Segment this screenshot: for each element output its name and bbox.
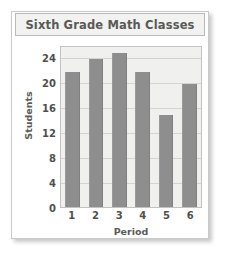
bar-slot xyxy=(108,47,131,207)
bar[interactable] xyxy=(159,115,173,207)
page-title: Sixth Grade Math Classes xyxy=(25,18,194,32)
bar-series xyxy=(61,47,201,207)
x-axis-tick-label: 5 xyxy=(155,210,179,221)
y-axis-tick-label: 20 xyxy=(34,78,56,89)
plot-inner xyxy=(61,47,201,207)
bar-slot xyxy=(178,47,201,207)
y-axis-tick-label: 16 xyxy=(34,103,56,114)
x-axis-tick-label: 6 xyxy=(178,210,202,221)
bar-slot xyxy=(84,47,107,207)
chart-plot-region: Students 04812162024 123456 Period xyxy=(12,38,210,239)
y-axis-tick-label: 4 xyxy=(34,178,56,189)
x-axis-tick-labels: 123456 xyxy=(60,210,202,221)
bar[interactable] xyxy=(182,84,196,207)
bar[interactable] xyxy=(135,72,149,207)
y-axis-tick-label: 24 xyxy=(34,53,56,64)
chart-card: Sixth Grade Math Classes Students 048121… xyxy=(11,11,209,239)
y-axis-tick-label: 12 xyxy=(34,128,56,139)
y-axis-title: Students xyxy=(23,86,34,146)
y-axis-tick-label: 8 xyxy=(34,153,56,164)
x-axis-title: Period xyxy=(60,226,202,237)
x-axis-tick-label: 1 xyxy=(60,210,84,221)
plot-area xyxy=(60,46,202,208)
bar[interactable] xyxy=(65,72,79,207)
y-axis-tick-label: 0 xyxy=(34,203,56,214)
x-axis-tick-label: 4 xyxy=(131,210,155,221)
bar-slot xyxy=(154,47,177,207)
chart-title-bar: Sixth Grade Math Classes xyxy=(15,13,205,36)
y-axis-tick-labels: 04812162024 xyxy=(34,56,56,208)
bar[interactable] xyxy=(89,59,103,207)
x-axis-tick-label: 2 xyxy=(84,210,108,221)
bar-slot xyxy=(61,47,84,207)
bar-slot xyxy=(131,47,154,207)
bar[interactable] xyxy=(112,53,126,207)
x-axis-tick-label: 3 xyxy=(107,210,131,221)
